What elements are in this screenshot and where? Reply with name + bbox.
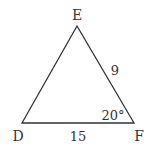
vertex-label-e: E: [72, 7, 82, 23]
vertex-label-f: F: [134, 128, 144, 144]
vertex-label-d: D: [12, 128, 23, 144]
side-label-ef: 9: [111, 63, 119, 78]
angle-label-f: 20°: [101, 108, 124, 123]
side-label-df: 15: [70, 129, 87, 144]
triangle-diagram: E D F 15 9 20°: [0, 0, 147, 148]
